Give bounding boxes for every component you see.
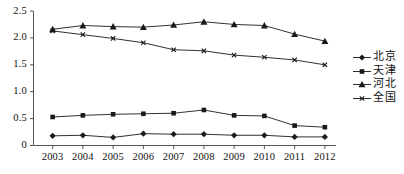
x-axis-tick-label: 2004 <box>67 151 99 162</box>
x-axis-tick-label: 2009 <box>218 151 250 162</box>
legend-item[interactable]: 天津 <box>352 64 404 78</box>
series-point <box>261 132 267 138</box>
y-axis-tick-label: 0.5 <box>0 112 27 123</box>
legend-item[interactable]: 河北 <box>352 77 404 91</box>
x-axis-tick-label: 2007 <box>158 151 190 162</box>
y-axis-tick-label: 2.0 <box>0 31 27 42</box>
legend-item-label: 天津 <box>372 64 396 77</box>
y-axis-tick-label: 1.0 <box>0 85 27 96</box>
square-marker-icon <box>352 64 372 77</box>
line-chart: 00.51.01.52.02.5 20032004200520062007200… <box>0 0 404 174</box>
chart-series-group <box>49 18 328 140</box>
y-axis-tick-label: 1.5 <box>0 58 27 69</box>
series-point <box>202 108 207 113</box>
diamond-marker-icon <box>352 50 372 63</box>
series-point <box>262 114 267 119</box>
series-line <box>53 22 325 41</box>
cross-marker-icon <box>352 91 372 104</box>
legend-item[interactable]: 北京 <box>352 50 404 64</box>
series-point <box>292 123 297 128</box>
triangle-marker-icon <box>352 77 372 90</box>
series-point <box>140 131 146 137</box>
chart-series <box>50 108 327 130</box>
x-axis-ticks <box>53 146 325 150</box>
series-line <box>53 31 325 65</box>
series-point <box>110 134 116 140</box>
x-axis-tick-label: 2006 <box>127 151 159 162</box>
legend-item[interactable]: 全国 <box>352 91 404 105</box>
series-point <box>171 111 176 116</box>
series-point <box>200 18 207 24</box>
x-axis-tick-label: 2010 <box>248 151 280 162</box>
y-axis-tick-label: 2.5 <box>0 5 27 16</box>
legend-item-label: 北京 <box>372 50 396 63</box>
series-point <box>171 131 177 137</box>
series-point <box>232 113 237 118</box>
chart-axes <box>34 11 337 146</box>
chart-legend: 北京天津河北全国 <box>352 50 404 104</box>
legend-item-label: 河北 <box>372 77 396 90</box>
series-point <box>111 112 116 117</box>
series-point <box>201 131 207 137</box>
series-point <box>50 133 56 139</box>
x-axis-tick-label: 2012 <box>309 151 341 162</box>
series-point <box>323 125 328 130</box>
legend-item-label: 全国 <box>372 91 396 104</box>
chart-plot-area <box>0 0 404 174</box>
series-point <box>322 134 328 140</box>
x-axis-tick-label: 2003 <box>37 151 69 162</box>
chart-series <box>50 29 327 67</box>
series-point <box>231 132 237 138</box>
series-point <box>141 111 146 116</box>
y-axis-ticks <box>30 11 34 146</box>
series-point <box>50 115 55 120</box>
x-axis-tick-label: 2005 <box>97 151 129 162</box>
series-point <box>80 132 86 138</box>
y-axis-tick-label: 0 <box>0 139 27 150</box>
x-axis-tick-label: 2008 <box>188 151 220 162</box>
series-point <box>81 113 86 118</box>
series-line <box>53 134 325 138</box>
x-axis-tick-label: 2011 <box>279 151 311 162</box>
chart-series <box>50 131 328 141</box>
chart-series <box>49 18 328 44</box>
series-line <box>53 110 325 127</box>
series-point <box>292 134 298 140</box>
